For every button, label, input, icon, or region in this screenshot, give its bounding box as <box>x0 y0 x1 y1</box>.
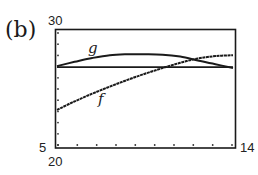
x-axis-tick-dots <box>57 144 233 146</box>
plot-curves <box>57 54 233 110</box>
curve-label-g: g <box>88 39 98 57</box>
viewing-window-frame <box>56 30 236 149</box>
curve-f <box>57 55 233 110</box>
y-axis-tick-dots <box>57 32 59 146</box>
curve-label-f: f <box>97 90 106 108</box>
graph-window: g f <box>0 0 258 175</box>
